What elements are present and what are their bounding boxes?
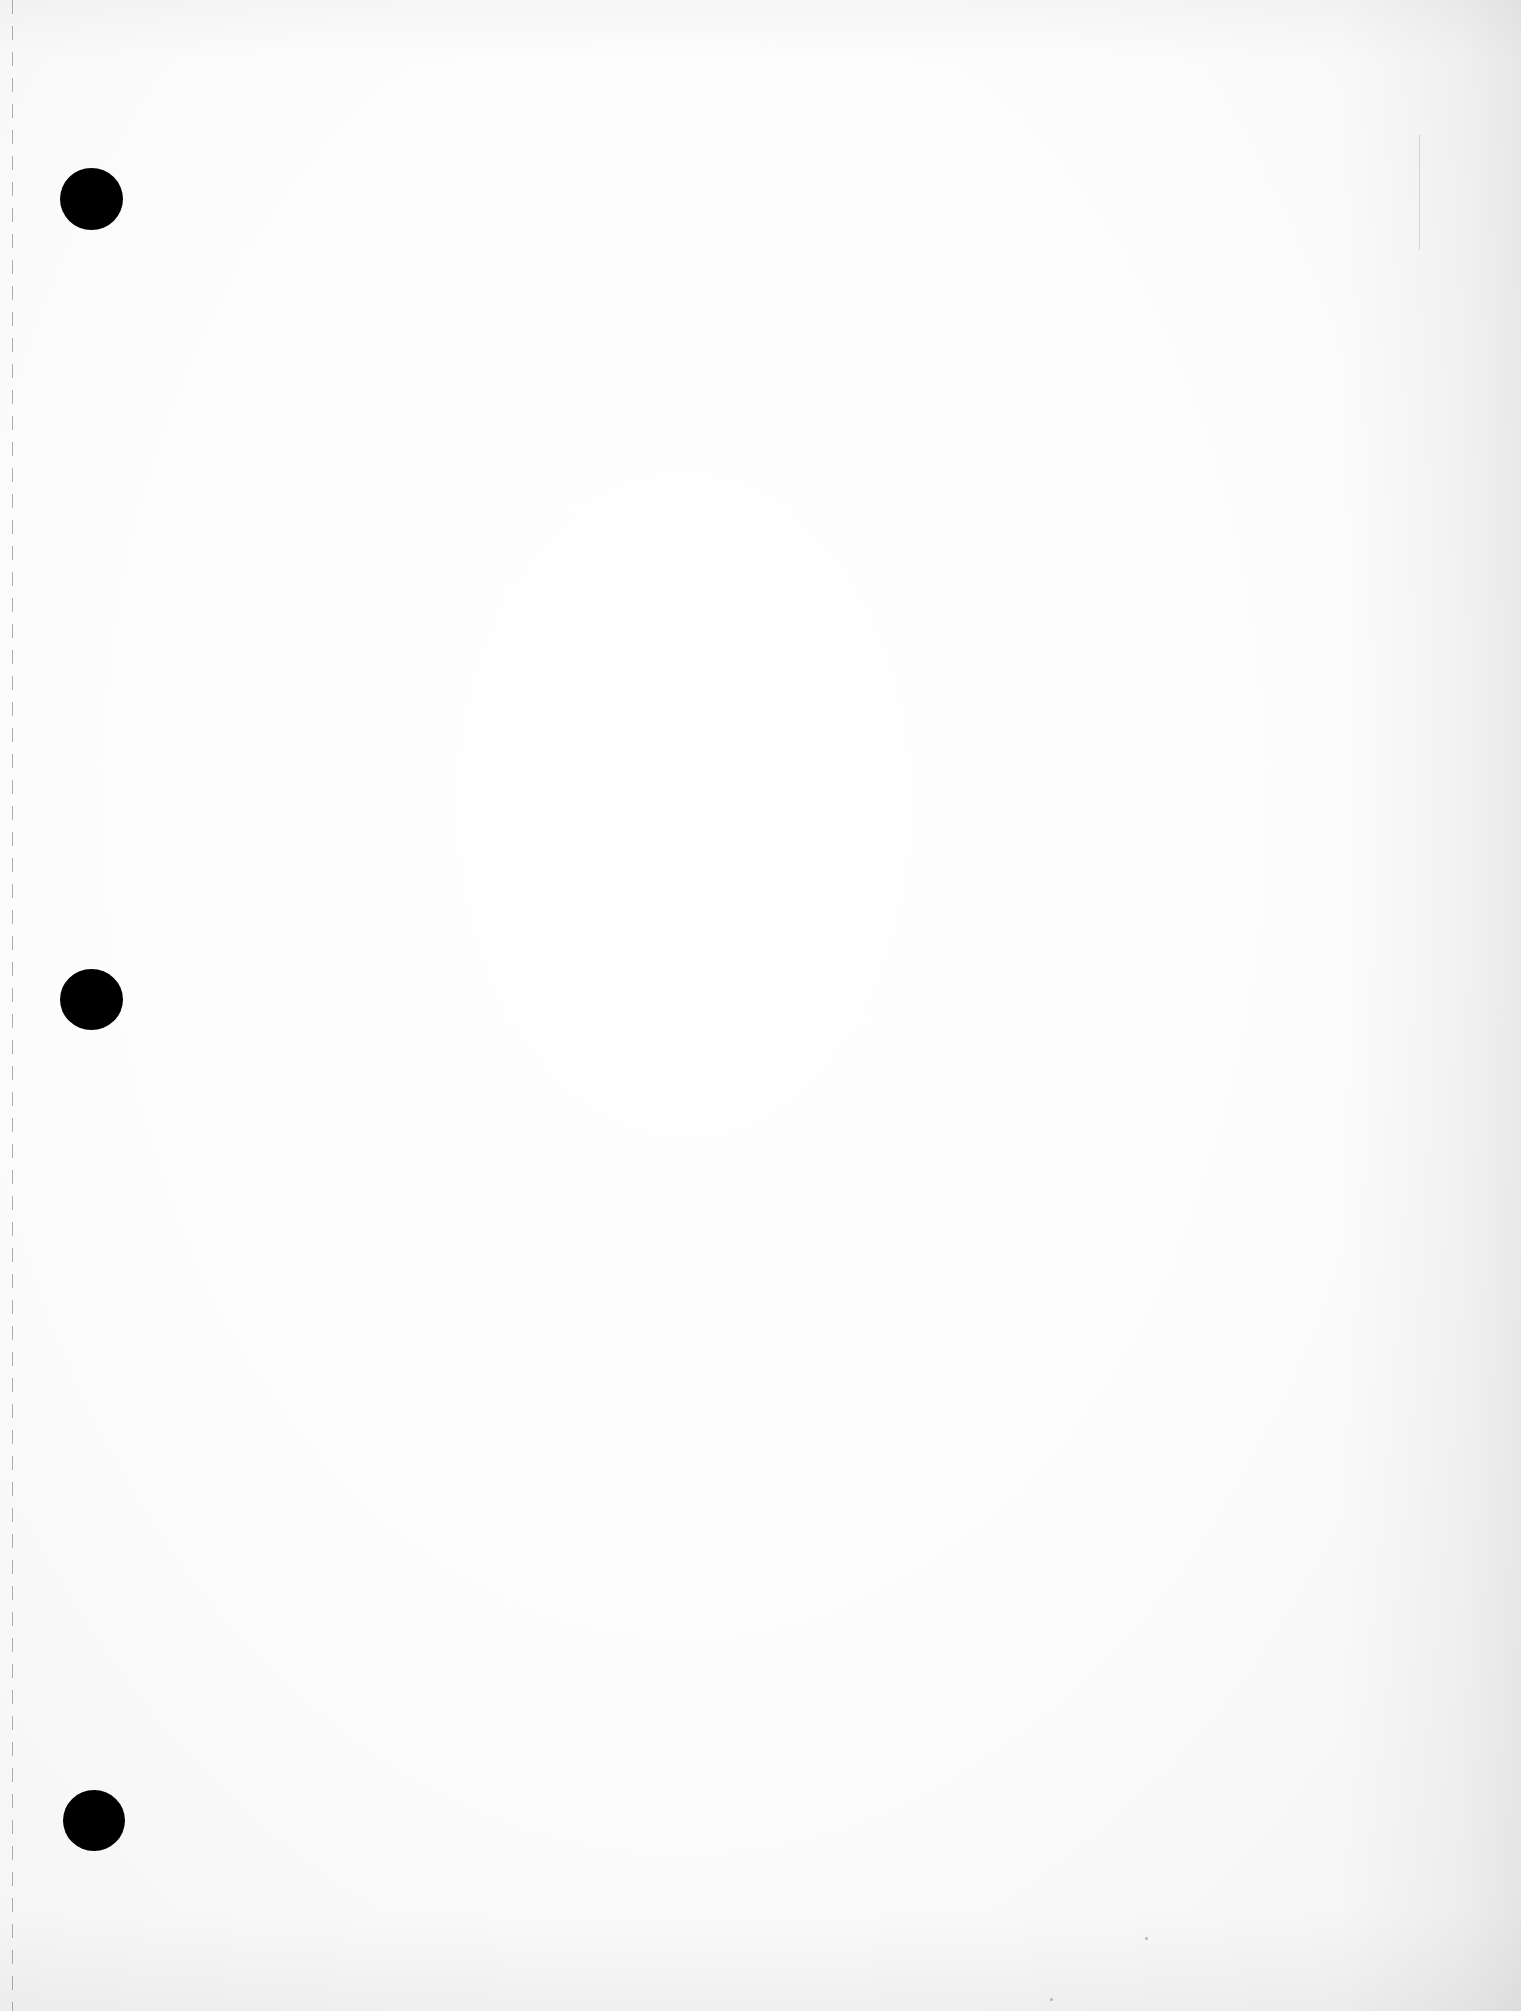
punch-hole-middle — [60, 969, 123, 1030]
paper-crease-mark — [1419, 135, 1420, 250]
scan-speck — [1050, 1998, 1053, 2001]
left-perforation-line — [12, 0, 13, 2011]
scan-speck — [1145, 1937, 1148, 1940]
punch-hole-top — [60, 168, 123, 230]
blank-paper-page — [0, 0, 1521, 2011]
punch-hole-bottom — [63, 1790, 125, 1851]
